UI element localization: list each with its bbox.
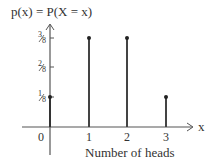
x-tick-label-1: 1 [86, 130, 92, 144]
stem-dot [125, 36, 129, 40]
stem-dot [48, 95, 52, 99]
chart-title: p(x) = P(X = x) [11, 4, 92, 19]
stem-x3 [164, 95, 168, 127]
y-tick-label-2-8: 2 8 [38, 59, 46, 74]
pmf-stem-chart: p(x) = P(X = x) x 1 8 2 8 3 8 [0, 0, 223, 165]
stem-x1 [87, 36, 91, 127]
svg-text:8: 8 [42, 65, 46, 74]
x-axis-symbol: x [198, 119, 205, 134]
y-tick-label-1-8: 1 8 [38, 89, 46, 104]
stem-x2 [125, 36, 129, 127]
stem-dot [164, 95, 168, 99]
svg-text:8: 8 [42, 36, 46, 45]
x-tick-label-3: 3 [163, 130, 169, 144]
x-tick-label-0: 0 [38, 130, 44, 144]
stem-dot [87, 36, 91, 40]
x-axis-label: Number of heads [85, 145, 175, 160]
y-tick-label-3-8: 3 8 [38, 30, 46, 45]
svg-text:8: 8 [42, 95, 46, 104]
x-tick-label-2: 2 [124, 130, 130, 144]
stem-x0 [48, 95, 52, 127]
